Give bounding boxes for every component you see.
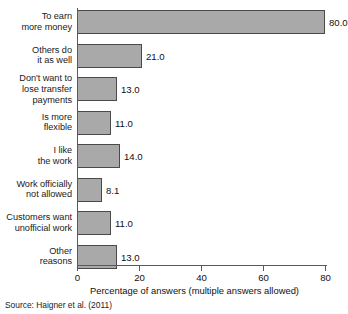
bar-value-label: 80.0	[329, 17, 348, 28]
x-axis-tick	[201, 266, 202, 271]
category-label: Other reasons	[0, 246, 72, 268]
y-axis-line	[77, 8, 78, 266]
bar-row: Don't want to lose transfer payments 13.…	[0, 77, 345, 101]
x-axis-tick	[77, 266, 78, 271]
x-axis-tick-label: 0	[75, 272, 80, 283]
bar	[77, 144, 120, 168]
category-label: Others do it as well	[0, 45, 72, 67]
x-axis-tick-label: 20	[134, 272, 145, 283]
bar-value-label: 21.0	[146, 50, 165, 61]
source-note: Source: Haigner et al. (2011)	[5, 300, 112, 310]
bar	[77, 77, 117, 101]
bar	[77, 211, 111, 235]
bar	[77, 111, 111, 135]
bar-value-label: 13.0	[121, 251, 140, 262]
bar-row: Others do it as well 21.0	[0, 44, 345, 68]
bar-value-label: 14.0	[124, 151, 143, 162]
x-axis-tick-label: 60	[258, 272, 269, 283]
x-axis-line	[77, 265, 327, 266]
x-axis-tick	[139, 266, 140, 271]
bar-row: Work officially not allowed 8.1	[0, 178, 345, 202]
x-axis-tick	[325, 266, 326, 271]
bar-row: I like the work 14.0	[0, 144, 345, 168]
x-axis-tick	[263, 266, 264, 271]
bar-value-label: 11.0	[115, 218, 133, 229]
bar-value-label: 8.1	[106, 184, 119, 195]
bar-value-label: 13.0	[121, 84, 140, 95]
category-label: Don't want to lose transfer payments	[0, 73, 72, 105]
bar-value-label: 11.0	[115, 117, 133, 128]
category-label: Customers want unofficial work	[0, 212, 72, 234]
bar-row: Is more flexible 11.0	[0, 111, 345, 135]
category-label: I like the work	[0, 145, 72, 167]
bar-row: To earn more money 80.0	[0, 10, 345, 34]
bar	[77, 44, 142, 68]
plot-area: To earn more money 80.0 Others do it as …	[0, 0, 345, 270]
category-label: To earn more money	[0, 11, 72, 33]
bar	[77, 178, 102, 202]
x-axis-tick-label: 80	[320, 272, 331, 283]
x-axis-title: Percentage of answers (multiple answers …	[0, 285, 345, 296]
bar	[77, 10, 325, 34]
category-label: Is more flexible	[0, 112, 72, 134]
x-axis-tick-label: 40	[196, 272, 207, 283]
bar-row: Customers want unofficial work 11.0	[0, 211, 345, 235]
category-label: Work officially not allowed	[0, 179, 72, 201]
